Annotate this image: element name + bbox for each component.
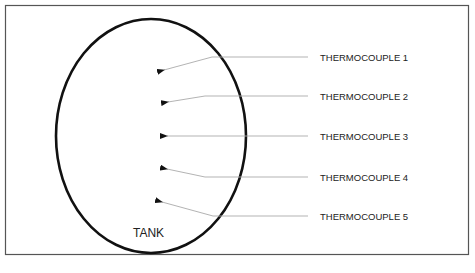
- label-thermocouple-2: THERMOCOUPLE 2: [320, 91, 408, 102]
- tank-label: TANK: [133, 226, 164, 240]
- label-thermocouple-3: THERMOCOUPLE 3: [320, 131, 408, 142]
- label-thermocouple-4: THERMOCOUPLE 4: [320, 172, 408, 183]
- label-thermocouple-5: THERMOCOUPLE 5: [320, 211, 408, 222]
- label-thermocouple-1: THERMOCOUPLE 1: [320, 52, 408, 63]
- tank-thermocouple-diagram: THERMOCOUPLE 1 THERMOCOUPLE 2 THERMOCOUP…: [0, 0, 475, 273]
